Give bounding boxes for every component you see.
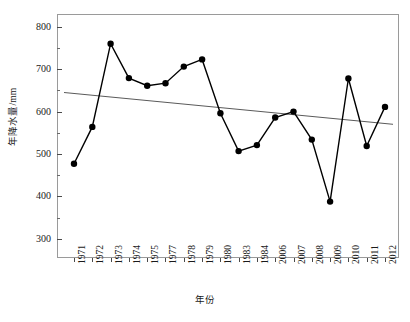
x-axis-tick-label: 2012	[389, 245, 399, 264]
y-axis-tick	[57, 27, 62, 28]
x-axis-tick-label: 1974	[133, 245, 143, 264]
x-axis-tick-label: 2010	[352, 245, 362, 264]
x-axis-tick	[129, 258, 130, 262]
y-axis-tick-label: 600	[21, 107, 51, 117]
x-axis-tick	[92, 258, 93, 262]
x-axis-tick-label: 1978	[188, 245, 198, 264]
y-axis-tick-label: 300	[21, 234, 51, 244]
y-axis-minor-tick	[57, 218, 60, 219]
x-axis-tick	[367, 258, 368, 262]
x-axis-tick	[202, 258, 203, 262]
plot-area	[57, 14, 399, 258]
precipitation-line-chart: 年降水量/mm 300400500600700800 1971197219731…	[0, 0, 410, 322]
x-axis-tick	[220, 258, 221, 262]
x-axis-tick	[257, 258, 258, 262]
y-axis-tick-label: 800	[21, 22, 51, 32]
x-axis-tick-label: 2009	[334, 245, 344, 264]
y-axis-tick	[57, 112, 62, 113]
x-axis-tick-label: 1983	[243, 245, 253, 264]
x-axis-tick	[111, 258, 112, 262]
x-axis-tick-label: 1971	[78, 245, 88, 264]
x-axis-tick-label: 2006	[279, 245, 289, 264]
x-axis-tick	[184, 258, 185, 262]
x-axis-tick	[275, 258, 276, 262]
y-axis-minor-tick	[57, 90, 60, 91]
y-axis-tick	[57, 154, 62, 155]
y-axis-minor-tick	[57, 175, 60, 176]
x-axis-tick-label: 1980	[224, 245, 234, 264]
y-axis-tick	[57, 239, 62, 240]
x-axis-tick	[294, 258, 295, 262]
x-axis-tick	[312, 258, 313, 262]
x-axis-tick	[330, 258, 331, 262]
x-axis-tick	[239, 258, 240, 262]
x-axis-tick-label: 1979	[206, 245, 216, 264]
x-axis-tick-label: 1973	[115, 245, 125, 264]
y-axis-tick-label: 400	[21, 191, 51, 201]
y-axis-minor-tick	[57, 133, 60, 134]
y-axis-tick-label: 500	[21, 149, 51, 159]
x-axis-tick-label: 1975	[151, 245, 161, 264]
x-axis-tick	[348, 258, 349, 262]
y-axis-minor-tick	[57, 48, 60, 49]
y-axis-title: 年降水量/mm	[5, 72, 19, 162]
x-axis-tick-label: 1984	[261, 245, 271, 264]
x-axis-tick-label: 2007	[298, 245, 308, 264]
y-axis-tick	[57, 69, 62, 70]
x-axis-title: 年份	[0, 292, 410, 306]
x-axis-tick-label: 2008	[316, 245, 326, 264]
x-axis-tick	[147, 258, 148, 262]
x-axis-tick-label: 1972	[96, 245, 106, 264]
x-axis-tick-label: 1977	[169, 245, 179, 264]
y-axis-tick	[57, 196, 62, 197]
x-axis-tick	[165, 258, 166, 262]
y-axis-tick-label: 700	[21, 64, 51, 74]
x-axis-tick	[385, 258, 386, 262]
x-axis-tick	[74, 258, 75, 262]
x-axis-tick-label: 2011	[371, 245, 381, 264]
